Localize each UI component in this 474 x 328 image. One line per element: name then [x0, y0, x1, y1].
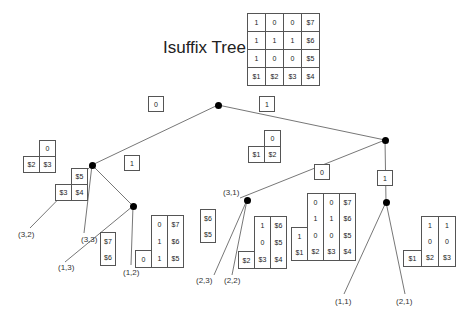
box-value: 1	[428, 222, 432, 229]
box-cell: $3	[39, 156, 56, 173]
box-value: 0	[261, 239, 265, 246]
tree-node	[244, 197, 251, 204]
matrix-cell: 0	[283, 49, 302, 68]
box-column: 0 1 0 $3	[323, 193, 340, 261]
box-value: 1	[298, 233, 302, 240]
box-column: $7 $6 $5	[167, 215, 184, 268]
box-cell: $1	[403, 250, 422, 267]
box-value: 0	[330, 199, 334, 206]
box-value: $5	[172, 255, 180, 262]
box-cell: $6 $5	[200, 209, 216, 243]
tree-node	[89, 162, 96, 169]
box-value: $6	[344, 215, 352, 222]
box-column: 1 0 $3	[438, 216, 456, 267]
box-value: $7	[104, 238, 112, 245]
box-column: 1 0 $2	[421, 216, 439, 267]
box-value: 0	[158, 221, 162, 228]
box-value: $4	[275, 256, 283, 263]
box-column: 0 1 0 $2	[307, 193, 324, 261]
box-column: $6 $5 $4	[270, 216, 287, 269]
matrix-cell: $2	[265, 67, 284, 86]
tree-node	[130, 203, 137, 210]
box-value: $4	[344, 248, 352, 255]
box-value: $3	[259, 256, 267, 263]
box-cell: $5	[71, 168, 88, 185]
box-value: 1	[330, 215, 334, 222]
box-cell: 0	[39, 140, 56, 157]
matrix-cell: $4	[301, 67, 320, 86]
box-column: 1 0 $3	[254, 216, 271, 269]
edge-label: 1	[124, 155, 140, 171]
box-value: 1	[261, 222, 265, 229]
leaf-label: (1,1)	[335, 297, 351, 306]
box-value: $6	[275, 222, 283, 229]
box-value: $7	[344, 199, 352, 206]
box-value: 0	[314, 199, 318, 206]
box-value: 0	[314, 232, 318, 239]
box-cell: 0	[264, 130, 281, 147]
tree-node	[383, 199, 390, 206]
box-cell: $2	[23, 156, 40, 173]
matrix-cell: $6	[301, 31, 320, 50]
box-value: 1	[158, 238, 162, 245]
box-value: 1	[445, 222, 449, 229]
box-value: $7	[172, 221, 180, 228]
matrix-cell: $7	[301, 13, 320, 32]
matrix-cell: 0	[265, 49, 284, 68]
box-cell: $2	[238, 251, 255, 269]
box-value: $1	[296, 249, 304, 256]
box-value: $5	[344, 232, 352, 239]
matrix-cell: 0	[265, 13, 284, 32]
leaf-label: (2,3)	[196, 276, 212, 285]
box-value: 1	[314, 215, 318, 222]
box-value: $5	[204, 231, 212, 238]
box-cell: $3	[55, 184, 72, 201]
box-value: 1	[158, 255, 162, 262]
leaf-label: (3,1)	[223, 188, 239, 197]
box-cell: $7 $6	[100, 232, 116, 266]
root-node	[215, 102, 222, 109]
box-value: 0	[428, 238, 432, 245]
box-cell: $4	[71, 184, 88, 201]
box-value: $6	[104, 254, 112, 261]
box-cell: $1	[248, 146, 265, 163]
edge-label: 1	[377, 170, 393, 186]
matrix-cell: 0	[283, 13, 302, 32]
matrix-cell: 1	[265, 31, 284, 50]
box-value: $2	[312, 248, 320, 255]
box-value: $3	[443, 254, 451, 261]
matrix-cell: 1	[247, 31, 266, 50]
matrix-cell: 1	[247, 49, 266, 68]
box-value: $3	[328, 248, 336, 255]
box-value: $2	[426, 254, 434, 261]
edge-label: 0	[148, 96, 164, 112]
box-value: $6	[172, 238, 180, 245]
box-value: $6	[204, 215, 212, 222]
leaf-label: (1,3)	[58, 263, 74, 272]
matrix-cell: 1	[247, 13, 266, 32]
edge-label: 1	[259, 96, 275, 112]
matrix-cell: 1	[283, 31, 302, 50]
matrix-cell: $5	[301, 49, 320, 68]
box-column: 1 $1	[291, 227, 308, 261]
leaf-label: (1,2)	[123, 268, 139, 277]
matrix-cell: $1	[247, 67, 266, 86]
leaf-label: (2,2)	[224, 276, 240, 285]
box-value: $5	[275, 239, 283, 246]
matrix-cell: $3	[283, 67, 302, 86]
box-value: 0	[445, 238, 449, 245]
leaf-label: (2,1)	[396, 297, 412, 306]
box-value: 0	[330, 232, 334, 239]
leaf-label: (3,2)	[18, 230, 34, 239]
leaf-label: (3,3)	[81, 235, 97, 244]
box-column: 0 1 1	[151, 215, 168, 268]
tree-node	[382, 137, 389, 144]
edge-label: 0	[314, 164, 330, 180]
box-column: $7 $6 $5 $4	[339, 193, 356, 261]
box-cell: $2	[264, 146, 281, 163]
box-cell: 0	[135, 250, 152, 268]
